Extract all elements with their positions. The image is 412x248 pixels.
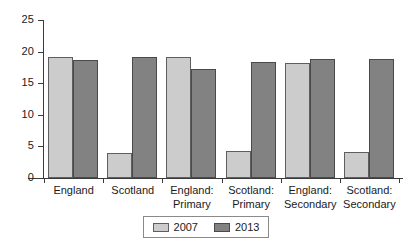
legend-label-2013: 2013 — [235, 221, 259, 233]
x-label-line1: Scotland: — [346, 184, 392, 196]
bar-2007-scotland-secondary — [344, 152, 369, 178]
x-axis-line — [28, 178, 403, 179]
bar-group — [44, 20, 103, 178]
bar-2013-scotland-secondary — [369, 59, 394, 178]
x-label-line2: Secondary — [326, 198, 412, 212]
x-tick-mark — [162, 178, 163, 183]
bar-group — [162, 20, 221, 178]
x-label-line1: England — [53, 184, 93, 196]
y-tick-label: 25 — [0, 13, 34, 26]
bar-group — [222, 20, 281, 178]
x-tick-mark — [222, 178, 223, 183]
bar-2007-scotland-primary — [226, 151, 251, 178]
y-tick-label: 5 — [0, 139, 34, 152]
bar-2013-scotland-primary — [251, 62, 276, 178]
bar-group — [103, 20, 162, 178]
x-tick-mark — [340, 178, 341, 183]
x-label-line1: Scotland — [111, 184, 154, 196]
bar-2007-england-primary — [166, 57, 191, 178]
bar-group — [281, 20, 340, 178]
legend-item-2013: 2013 — [214, 221, 259, 233]
bar-2007-england-secondary — [285, 63, 310, 178]
y-tick-label: 10 — [0, 108, 34, 121]
legend-label-2007: 2007 — [174, 221, 198, 233]
x-tick-mark — [44, 178, 45, 183]
bar-2007-scotland — [107, 153, 132, 178]
legend-swatch-2007 — [153, 223, 169, 232]
y-tick-label: 0 — [0, 171, 34, 184]
legend-item-2007: 2007 — [153, 221, 198, 233]
y-tick-label: 15 — [0, 76, 34, 89]
y-tick-label: 20 — [0, 45, 34, 58]
bar-group — [340, 20, 399, 178]
bar-2013-england-primary — [191, 69, 216, 178]
bar-2013-scotland — [132, 57, 157, 178]
x-tick-mark — [281, 178, 282, 183]
x-tick-mark — [399, 178, 400, 183]
bar-2007-england — [48, 57, 73, 178]
plot-area — [44, 20, 399, 178]
bar-2013-england-secondary — [310, 59, 335, 178]
bar-2013-england — [73, 60, 98, 178]
chart-legend: 2007 2013 — [143, 216, 269, 238]
bar-chart: 0510152025 EnglandScotlandEngland:Primar… — [0, 0, 412, 248]
legend-swatch-2013 — [214, 223, 230, 232]
x-label-scotland-secondary: Scotland:Secondary — [326, 184, 412, 211]
x-tick-mark — [103, 178, 104, 183]
